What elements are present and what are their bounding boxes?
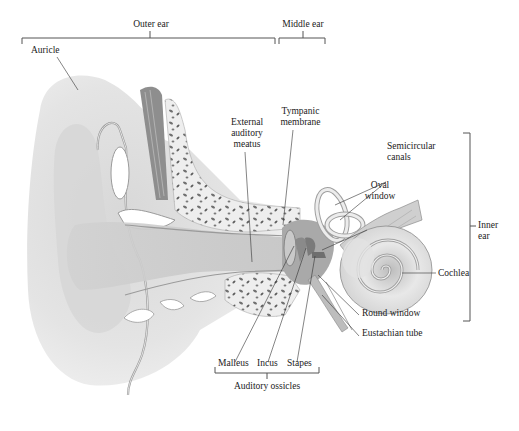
label-stapes: Stapes — [287, 358, 312, 369]
label-eustachian-tube: Eustachian tube — [362, 328, 422, 339]
label-external-auditory-meatus: External auditory meatus — [222, 117, 272, 150]
label-semicircular-line2: canals — [387, 152, 436, 163]
label-external-line1: External — [222, 117, 272, 128]
label-malleus: Malleus — [218, 358, 249, 369]
middle-ear-bracket — [279, 31, 325, 44]
outer-ear-bracket — [22, 31, 275, 44]
label-tympanic-line1: Tympanic — [273, 106, 328, 117]
label-inner-ear-line1: Inner — [478, 220, 498, 231]
label-round-window: Round window — [362, 308, 420, 319]
label-tympanic-line2: membrane — [273, 117, 328, 128]
label-oval-window: Oval window — [362, 180, 398, 202]
tympanic-membrane-shape — [284, 230, 296, 266]
label-external-line2: auditory — [222, 128, 272, 139]
label-semicircular-line1: Semicircular — [387, 141, 436, 152]
label-auditory-ossicles: Auditory ossicles — [226, 381, 308, 392]
label-middle-ear: Middle ear — [277, 19, 329, 30]
inner-ear-bracket — [463, 133, 476, 321]
label-oval-line1: Oval — [362, 180, 398, 191]
label-semicircular-canals: Semicircular canals — [387, 141, 436, 163]
label-cochlea: Cochlea — [438, 268, 469, 279]
label-outer-ear: Outer ear — [125, 19, 177, 30]
label-external-line3: meatus — [222, 139, 272, 150]
label-inner-ear-line2: ear — [478, 231, 498, 242]
ear-anatomy-diagram: Outer ear Middle ear Inner ear Auricle E… — [0, 0, 519, 431]
stapes-shape — [312, 252, 326, 258]
label-oval-line2: window — [362, 191, 398, 202]
label-inner-ear: Inner ear — [478, 220, 498, 242]
label-auricle: Auricle — [31, 45, 60, 56]
label-incus: Incus — [257, 358, 278, 369]
cochlea-shape — [340, 226, 432, 314]
label-tympanic-membrane: Tympanic membrane — [273, 106, 328, 128]
